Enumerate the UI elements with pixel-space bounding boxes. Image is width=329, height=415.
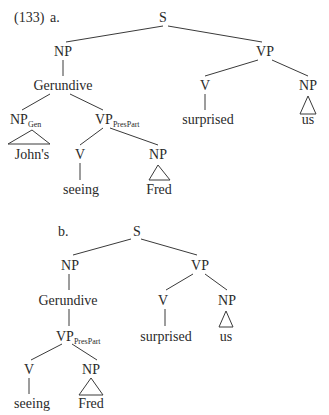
tree-node-vp: VP xyxy=(191,258,209,273)
triangle-abbreviation-icon xyxy=(79,378,103,395)
tree-node-seeing: seeing xyxy=(63,182,99,197)
tree-node-fred: Fred xyxy=(146,182,172,197)
tree-node-npgen: NPGen xyxy=(10,112,41,129)
tree-node-v2: V xyxy=(24,362,34,377)
tree-node-johns: John's xyxy=(15,147,49,162)
tree-edge xyxy=(205,274,227,290)
triangle-abbreviation-icon xyxy=(8,130,50,144)
tree-node-us: us xyxy=(302,112,314,127)
tree-edge xyxy=(272,60,308,76)
tree-node-v1: V xyxy=(200,78,210,93)
tree-node-ger: Gerundive xyxy=(33,78,92,93)
tree-node-v1: V xyxy=(158,293,168,308)
tree-node-vppp: VPPresPart xyxy=(95,112,140,129)
triangle-abbreviation-icon xyxy=(149,165,170,180)
tree-edge xyxy=(205,60,258,76)
example-number: (133) xyxy=(14,10,45,26)
tree-node-np3: NP xyxy=(149,147,167,162)
tree-node-ger: Gerundive xyxy=(38,293,97,308)
tree-node-np2: NP xyxy=(299,78,317,93)
tree-edge xyxy=(31,344,62,360)
tree-node-us: us xyxy=(220,329,232,344)
tree-edge xyxy=(168,26,262,42)
tree-node-s: S xyxy=(133,224,141,239)
tree-edge xyxy=(70,94,103,110)
tree-edge xyxy=(22,94,50,110)
tree-edge xyxy=(66,26,163,42)
tree-node-vppp: VPPresPart xyxy=(56,329,101,346)
triangle-abbreviation-icon xyxy=(219,311,233,327)
tree-node-seeing: seeing xyxy=(14,396,50,411)
tree-edge xyxy=(110,128,158,145)
tree-node-surprised: surprised xyxy=(140,329,191,344)
tree-node-s: S xyxy=(159,10,167,25)
tree-canvas: (133) a.SNPVPGerundiveVNPNPGenVPPresPart… xyxy=(0,0,329,415)
tree-edge xyxy=(80,128,103,145)
tree-node-np3: NP xyxy=(82,362,100,377)
tree-node-vp: VP xyxy=(256,44,274,59)
example-sublabel: a. xyxy=(50,10,60,25)
tree-node-np: NP xyxy=(61,258,79,273)
tree-node-fred: Fred xyxy=(78,396,104,411)
tree-edge xyxy=(141,239,197,255)
tree-edge xyxy=(72,344,97,360)
syntax-tree-diagram: (133) a.SNPVPGerundiveVNPNPGenVPPresPart… xyxy=(0,0,329,415)
tree-b: b.SNPVPGerundiveVNPVPPresPartsurprisedus… xyxy=(14,224,236,411)
tree-node-v2: V xyxy=(75,147,85,162)
tree-edge xyxy=(73,239,131,255)
tree-node-surprised: surprised xyxy=(182,112,233,127)
tree-node-np2: NP xyxy=(218,293,236,308)
example-sublabel: b. xyxy=(58,224,69,239)
tree-a: a.SNPVPGerundiveVNPNPGenVPPresPartsurpri… xyxy=(8,10,317,197)
tree-edge xyxy=(166,274,193,290)
tree-node-np: NP xyxy=(54,44,72,59)
